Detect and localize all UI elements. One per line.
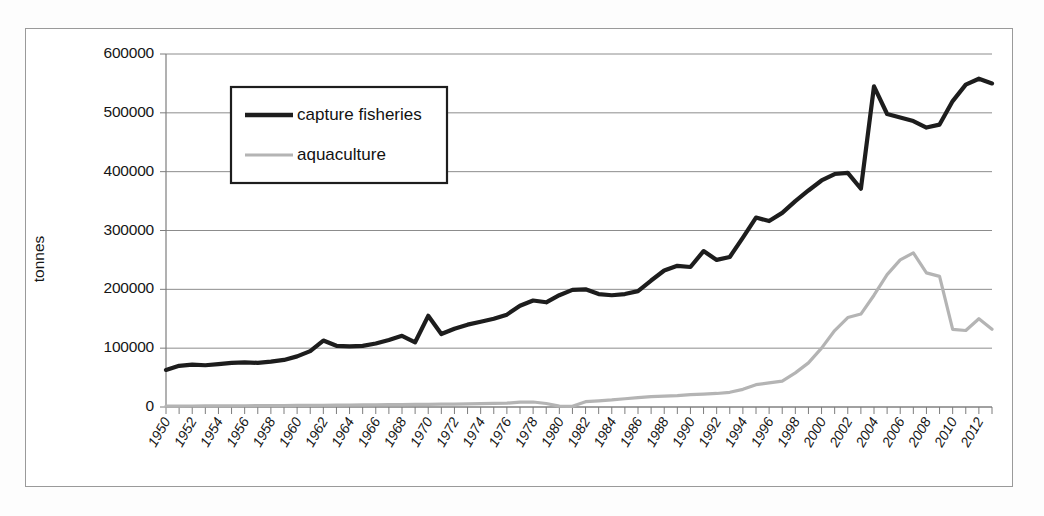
x-tick-label: 2002 [825,414,855,450]
x-tick-label: 1950 [144,414,174,449]
x-tick-label: 1952 [170,414,200,449]
y-tick-label: 400000 [103,162,154,179]
x-tick-label: 1962 [301,414,331,449]
y-tick-label: 500000 [103,103,154,120]
x-tick-label: 1960 [275,414,305,449]
series-line-aquaculture [166,253,992,406]
x-tick-label: 1954 [197,414,227,449]
y-tick-label: 300000 [103,221,154,238]
x-tick-label: 2012 [957,414,987,450]
x-tick-label: 1986 [616,414,646,449]
chart-outer-frame: 0100000200000300000400000500000600000 19… [25,28,1013,487]
y-axis-title: tonnes [30,235,47,282]
x-tick-label: 1974 [459,414,489,449]
line-chart-figure: 0100000200000300000400000500000600000 19… [26,29,1014,488]
x-tick-label: 2008 [904,414,934,450]
x-tick-label: 1958 [249,414,279,449]
x-tick-label: 2006 [878,414,908,450]
y-tick-label: 100000 [103,338,154,355]
chart-page: 0100000200000300000400000500000600000 19… [0,0,1044,516]
x-tick-label: 1972 [433,414,463,449]
x-tick-label: 2000 [799,414,829,450]
y-tick-label: 200000 [103,279,154,296]
x-tick-label: 1978 [511,414,541,449]
x-tick-label: 1992 [695,414,725,449]
x-tick-label: 1980 [537,414,567,449]
legend-box [231,87,447,183]
x-tick-label: 1984 [590,414,620,449]
x-tick-label: 1988 [642,414,672,449]
y-tick-label: 0 [146,397,155,414]
x-tick-label: 1970 [406,414,436,449]
x-tick-label: 1994 [721,414,751,449]
legend-label: aquaculture [297,145,386,164]
x-tick-label: 1996 [747,414,777,449]
chart-legend: capture fisheriesaquaculture [231,87,447,183]
x-tick-label: 2004 [852,414,882,450]
x-tick-label: 1998 [773,414,803,449]
x-tick-label: 1990 [669,414,699,449]
x-tick-label: 1964 [328,414,358,449]
x-tick-label: 2010 [930,414,960,450]
x-axis-tickmarks [166,407,992,414]
x-tick-label: 1956 [223,414,253,449]
x-tick-label: 1968 [380,414,410,449]
legend-label: capture fisheries [297,105,422,124]
x-tick-label: 1982 [564,414,594,449]
x-tick-label: 1976 [485,414,515,449]
x-tick-label: 1966 [354,414,384,449]
x-axis-tick-labels: 1950195219541956195819601962196419661968… [144,414,986,450]
y-axis-tick-labels: 0100000200000300000400000500000600000 [103,44,166,414]
y-tick-label: 600000 [103,44,154,61]
